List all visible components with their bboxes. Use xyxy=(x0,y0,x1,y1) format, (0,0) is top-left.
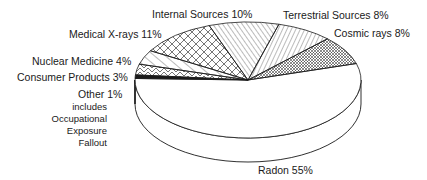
label-other-note-fallout: Fallout xyxy=(78,137,107,149)
label-consumer-products: Consumer Products 3% xyxy=(17,71,128,83)
pie-slices xyxy=(135,22,361,138)
label-other-note-occupational: Occupational xyxy=(52,113,107,125)
label-internal-sources: Internal Sources 10% xyxy=(152,8,252,20)
label-other-note-includes: includes xyxy=(72,101,107,113)
label-other-note-exposure: Exposure xyxy=(67,125,107,137)
label-medical-xrays: Medical X-rays 11% xyxy=(69,28,162,40)
label-radon: Radon 55% xyxy=(258,164,313,176)
label-cosmic-rays: Cosmic rays 8% xyxy=(334,27,410,39)
label-nuclear-medicine: Nuclear Medicine 4% xyxy=(32,55,131,67)
label-terrestrial-sources: Terrestrial Sources 8% xyxy=(283,9,389,21)
label-other: Other 1% xyxy=(78,88,122,100)
